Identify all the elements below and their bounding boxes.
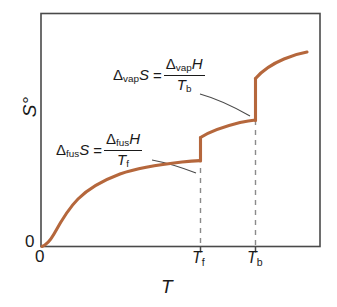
plot-frame (41, 14, 320, 247)
vap-lhs-variable: S (139, 66, 149, 83)
vap-numerator: ΔvapH (164, 56, 205, 75)
fus-num-variable: H (129, 130, 140, 147)
vap-num-subscript: vap (176, 62, 192, 73)
fus-num-subscript: fus (116, 137, 129, 148)
vap-equals-sign: = (153, 67, 162, 84)
x-axis-title: T (161, 276, 173, 298)
vap-den-subscript: b (186, 84, 192, 95)
vap-lhs-delta: Δ (113, 66, 123, 83)
fus-lhs-subscript: fus (66, 149, 79, 160)
fus-equals-sign: = (93, 142, 102, 159)
fus-lhs: ΔfusS (56, 141, 89, 159)
x-axis-zero-label: 0 (35, 247, 44, 267)
fus-fraction: ΔfusH Tf (104, 131, 142, 170)
fus-denominator: Tf (104, 150, 142, 170)
vap-num-delta: Δ (166, 55, 176, 72)
tf-variable: T (192, 249, 202, 266)
fus-den-subscript: f (126, 159, 129, 170)
entropy-temperature-figure: S° T 0 0 Tf Tb ΔvapS = ΔvapH Tb ΔfusS = … (0, 0, 337, 307)
fus-num-delta: Δ (106, 130, 116, 147)
vaporization-entropy-equation: ΔvapS = ΔvapH Tb (113, 56, 205, 95)
fus-lhs-delta: Δ (56, 141, 66, 158)
tb-variable: T (247, 249, 257, 266)
tf-subscript: f (202, 256, 205, 268)
vap-lhs-subscript: vap (123, 74, 139, 85)
vap-denominator: Tb (164, 75, 205, 95)
fusion-entropy-equation: ΔfusS = ΔfusH Tf (56, 131, 142, 170)
fus-numerator: ΔfusH (104, 131, 142, 150)
vap-den-variable: T (177, 76, 186, 93)
tb-subscript: b (257, 256, 263, 268)
fus-lhs-variable: S (79, 141, 89, 158)
vap-lhs: ΔvapS (113, 66, 149, 84)
y-axis-zero-label: 0 (25, 232, 34, 252)
plot-canvas (0, 0, 337, 307)
y-axis-title-symbol: S (19, 104, 40, 117)
x-tick-label-tf: Tf (192, 249, 205, 268)
y-axis-degree-symbol: ° (19, 97, 40, 105)
x-tick-label-tb: Tb (247, 249, 263, 268)
fus-den-variable: T (117, 151, 126, 168)
y-axis-title: S° (19, 97, 41, 117)
vap-num-variable: H (192, 55, 203, 72)
vap-fraction: ΔvapH Tb (164, 56, 205, 95)
